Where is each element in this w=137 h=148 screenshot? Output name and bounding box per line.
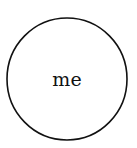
node-label: me bbox=[52, 68, 81, 90]
diagram-canvas: me bbox=[0, 0, 137, 148]
node-me: me bbox=[7, 18, 127, 140]
